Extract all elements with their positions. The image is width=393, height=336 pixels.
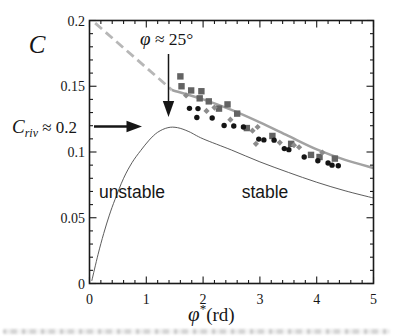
x-axis-unit: (rd) — [206, 304, 234, 326]
square-data-point — [216, 105, 222, 111]
criv-annotation: Criv ≈ 0.2 — [12, 116, 77, 140]
phi-angle-annotation: φ ≈ 25° — [140, 28, 193, 49]
square-data-point — [234, 110, 240, 116]
y-tick-labels: 00.050.10.150.2 — [61, 14, 86, 292]
y-tick-label-0.05: 0.05 — [61, 211, 86, 226]
phi-symbol: φ — [140, 28, 151, 49]
square-data-point — [178, 83, 184, 89]
circle-data-point — [302, 154, 307, 159]
circle-data-point — [256, 136, 261, 141]
square-data-point — [308, 152, 314, 158]
square-data-point — [206, 98, 212, 104]
circle-data-point — [336, 163, 341, 168]
diamond-data-point — [277, 139, 283, 145]
square-data-point — [332, 155, 338, 161]
circle-data-point — [241, 124, 246, 129]
circle-data-point — [271, 137, 276, 142]
stable-label: stable — [242, 182, 289, 202]
circle-data-point — [194, 115, 199, 120]
stability-limit — [92, 127, 374, 281]
square-data-point — [198, 88, 204, 94]
criv-subscript: riv — [25, 126, 39, 140]
circle-data-point — [209, 115, 214, 120]
circle-data-point — [329, 162, 334, 167]
cropped-caption-smear — [3, 329, 390, 334]
circle-data-point — [315, 158, 320, 163]
criv-annotation-text: ≈ 0.2 — [38, 118, 77, 137]
plot-frame — [90, 21, 374, 284]
circle-data-point — [286, 147, 291, 152]
x-tick-label-3: 3 — [256, 292, 263, 307]
unstable-label: unstable — [99, 182, 165, 202]
criv-arrow-head — [127, 121, 143, 132]
square-data-point — [177, 73, 183, 79]
x-axis-symbol: φ — [188, 302, 200, 326]
axis-ticks — [90, 21, 374, 284]
circle-data-point — [282, 146, 287, 151]
circle-data-point — [261, 137, 266, 142]
x-tick-label-1: 1 — [143, 292, 150, 307]
y-axis-title: C — [29, 31, 46, 58]
diamond-data-point — [203, 108, 209, 114]
y-tick-label-0.15: 0.15 — [61, 79, 86, 94]
circle-data-point — [195, 106, 200, 111]
circle-data-point — [231, 123, 236, 128]
diamond-data-point — [249, 128, 255, 134]
circle-data-point — [221, 123, 226, 128]
phi-arrow-head — [163, 101, 174, 117]
diamond-data-point — [255, 124, 261, 130]
y-tick-label-0.1: 0.1 — [68, 145, 86, 160]
x-axis-title: φ*(rd) — [188, 301, 235, 326]
square-data-point — [224, 101, 230, 107]
friction-angle-fit — [172, 90, 374, 168]
x-tick-label-4: 4 — [313, 292, 320, 307]
circle-data-point — [187, 106, 192, 111]
x-tick-label-0: 0 — [86, 292, 93, 307]
x-tick-label-5: 5 — [370, 292, 377, 307]
figure-canvas: 00.050.10.150.2 012345 C φ*(rd) φ ≈ 25° … — [0, 0, 393, 336]
curve-layer — [92, 23, 374, 281]
stability-chart: 00.050.10.150.2 012345 C φ*(rd) φ ≈ 25° … — [0, 0, 393, 336]
square-data-point — [196, 95, 202, 101]
phi-annotation-text: ≈ 25° — [151, 29, 194, 49]
y-tick-label-0: 0 — [78, 277, 85, 292]
y-tick-label-0.2: 0.2 — [68, 14, 86, 29]
square-data-point — [188, 87, 194, 93]
diamond-data-point — [227, 117, 233, 123]
criv-symbol: C — [12, 116, 25, 137]
